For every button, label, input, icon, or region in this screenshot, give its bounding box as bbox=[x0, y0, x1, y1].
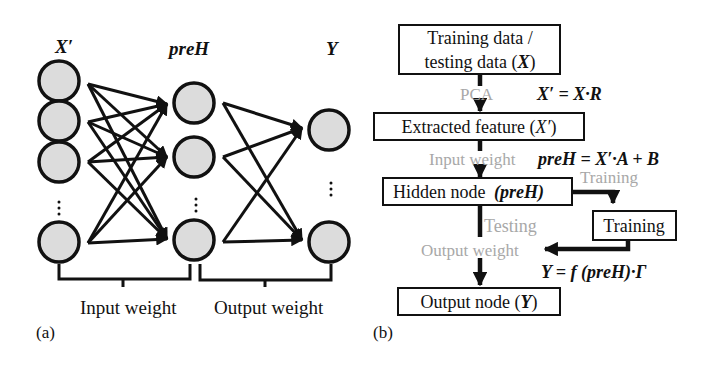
input-node bbox=[39, 222, 79, 262]
output-weight-equation: Y = f (preH)·Γ bbox=[541, 262, 647, 283]
input-weight-label: Input weight bbox=[80, 297, 177, 318]
input-node bbox=[39, 61, 79, 101]
hidden-ellipsis bbox=[195, 198, 198, 213]
hidden-layer bbox=[174, 83, 214, 260]
hidden-node bbox=[174, 83, 214, 123]
output-weight-edges bbox=[223, 103, 302, 242]
output-layer-label: Y bbox=[326, 38, 340, 59]
output-ellipsis bbox=[330, 182, 333, 197]
arrow-from-training bbox=[545, 241, 628, 249]
input-layer bbox=[39, 61, 79, 262]
panel-b-caption: (b) bbox=[373, 323, 393, 342]
output-weight-bracket bbox=[200, 264, 331, 287]
training-box-label: Training bbox=[603, 216, 664, 236]
hidden-node-label: Hidden node (preH) bbox=[393, 182, 544, 203]
input-weight-edges bbox=[88, 84, 167, 243]
output-node bbox=[309, 222, 349, 262]
hidden-node bbox=[174, 137, 214, 177]
input-node bbox=[39, 142, 79, 182]
testing-step-label: Testing bbox=[484, 216, 537, 236]
output-weight-label: Output weight bbox=[214, 297, 324, 318]
training-step-label: Training bbox=[580, 168, 638, 187]
input-node bbox=[39, 101, 79, 141]
panel-b-flowchart: Training data / testing data (X) PCA X′ … bbox=[373, 25, 676, 342]
pca-label: PCA bbox=[460, 85, 494, 104]
input-weight-bracket bbox=[59, 264, 190, 287]
panel-a-caption: (a) bbox=[36, 323, 55, 342]
input-weight-equation: preH = X′·A + B bbox=[536, 149, 659, 169]
arrow-to-training bbox=[573, 192, 613, 203]
figure: X′ preH Y bbox=[0, 0, 713, 366]
training-data-line1: Training data / bbox=[427, 28, 532, 48]
training-data-line2: testing data (X) bbox=[425, 52, 536, 73]
output-layer bbox=[309, 110, 349, 262]
hidden-layer-label: preH bbox=[167, 38, 210, 59]
output-node bbox=[309, 110, 349, 150]
input-layer-label: X′ bbox=[54, 36, 73, 57]
hidden-node bbox=[174, 220, 214, 260]
input-weight-step-label: Input weight bbox=[429, 150, 516, 169]
panel-a-network: X′ preH Y bbox=[36, 36, 349, 342]
extracted-feature-label: Extracted feature (X′) bbox=[402, 117, 557, 138]
output-node-label: Output node (Y) bbox=[421, 292, 538, 313]
input-ellipsis bbox=[58, 201, 61, 216]
output-weight-step-label: Output weight bbox=[421, 241, 519, 260]
pca-equation: X′ = X·R bbox=[536, 84, 602, 104]
